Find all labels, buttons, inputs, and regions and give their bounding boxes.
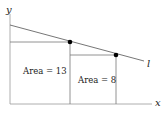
point-2	[114, 53, 119, 58]
rect2-area-label: Area = 8	[77, 75, 116, 85]
x-axis-label: x	[155, 97, 161, 108]
diagram: y x l Area = 13 Area = 8	[0, 0, 168, 113]
point-1	[68, 40, 73, 45]
line-l-label: l	[147, 58, 150, 69]
line-l	[10, 25, 144, 61]
rect1-area-label: Area = 13	[22, 66, 67, 76]
y-axis-label: y	[5, 4, 12, 15]
